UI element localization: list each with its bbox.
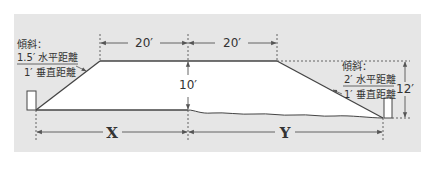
right-slope-title: 傾斜： xyxy=(342,60,372,72)
base-x-label: X xyxy=(106,124,118,142)
left-height-label: 10′ xyxy=(179,78,197,92)
left-post xyxy=(27,91,36,110)
left-slope-title: 傾斜： xyxy=(17,38,47,50)
top-width-left-label: 20′ xyxy=(135,36,153,50)
left-slope-denominator: 1′ 垂直距離 xyxy=(24,66,76,78)
right-post xyxy=(384,98,392,118)
right-slope-denominator: 1′ 垂直距離 xyxy=(344,88,396,100)
left-slope-numerator: 1.5′ 水平距離 xyxy=(17,51,78,63)
top-width-right-label: 20′ xyxy=(223,36,241,50)
right-height-label: 12′ xyxy=(396,82,414,96)
right-slope-numerator: 2′ 水平距離 xyxy=(344,73,396,85)
embankment-diagram: 20′ 20′ 10′ 12′ 傾斜： 1.5′ 水平距離 1′ 垂直距離 傾斜… xyxy=(0,0,436,170)
base-y-label: Y xyxy=(279,124,291,142)
